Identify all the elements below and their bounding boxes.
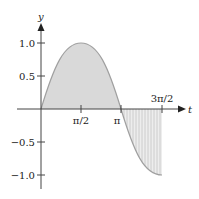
negative-area [121,109,162,175]
x-tick-three-pi-half: 3π/2 [151,93,174,104]
positive-area [41,43,121,109]
y-axis-arrow-icon [38,23,45,31]
y-tick-05: 0.5 [19,71,35,82]
sine-area-chart: y t 1.0 0.5 −0.5 −1.0 π/2 π 3π/2 [0,0,199,199]
x-axis-arrow-icon [178,106,186,113]
y-tick-m1: −1.0 [11,170,35,181]
y-tick-1: 1.0 [19,38,35,49]
y-axis-label: y [37,11,44,22]
x-tick-pi-half: π/2 [73,115,89,126]
x-axis-label: t [188,104,193,115]
y-tick-m05: −0.5 [11,137,35,148]
x-tick-pi: π [114,115,121,126]
